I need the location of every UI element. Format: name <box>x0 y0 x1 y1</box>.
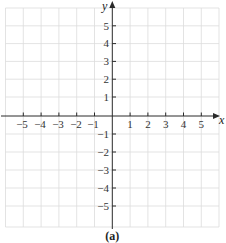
x-tick-label: 2 <box>145 118 151 130</box>
coordinate-plane: −5 −4 −3 −2 −1 1 2 3 4 5 5 4 3 2 1 −1 −2… <box>0 0 226 243</box>
x-tick-label: 1 <box>127 118 133 130</box>
y-axis-label: y <box>101 0 108 13</box>
x-tick-label: −2 <box>70 118 82 130</box>
y-axis-arrow-icon <box>109 1 115 8</box>
y-tick-label: −4 <box>97 182 109 194</box>
x-tick-label: 3 <box>163 118 169 130</box>
x-tick-label: 4 <box>181 118 187 130</box>
y-tick-label: 1 <box>104 91 110 103</box>
y-axis <box>109 1 116 229</box>
x-axis-label: x <box>218 113 225 127</box>
y-tick-label: 2 <box>104 73 110 85</box>
x-tick-label: −3 <box>52 118 64 130</box>
y-tick-label: −5 <box>97 200 109 212</box>
x-tick-label: −4 <box>34 118 46 130</box>
x-tick-label: 5 <box>199 118 205 130</box>
y-tick-label: 3 <box>104 55 110 67</box>
figure-caption: (a) <box>105 229 119 243</box>
x-tick-labels: −5 −4 −3 −2 −1 1 2 3 4 5 <box>16 118 204 130</box>
y-tick-label: −2 <box>97 146 109 158</box>
y-tick-label: 4 <box>104 37 110 49</box>
y-tick-label: −1 <box>97 128 109 140</box>
y-tick-label: 5 <box>104 20 110 32</box>
x-tick-label: −5 <box>16 118 28 130</box>
y-tick-label: −3 <box>97 164 109 176</box>
